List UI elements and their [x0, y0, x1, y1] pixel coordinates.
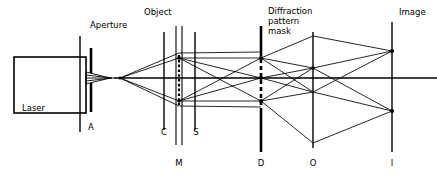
imaging-rays-o-to-i: [313, 36, 392, 143]
letter-a-label: A: [88, 122, 94, 132]
object-slide-m: [176, 26, 182, 145]
object-label: Object: [144, 7, 172, 17]
letter-i-label: I: [391, 158, 394, 168]
diffraction-mask-plane: [259, 26, 263, 152]
laser-label: Laser: [22, 103, 46, 113]
letter-s-label: S: [193, 127, 198, 137]
diffraction-mask-label-line2: pattern: [268, 16, 299, 26]
diverging-beam-cone: [120, 53, 179, 106]
diffracted-orders-m-to-d: [179, 52, 261, 107]
lens-o-plane: [311, 32, 315, 148]
diagram-canvas: Laser Aperture Object Diffraction patter…: [0, 0, 437, 179]
optical-diagram: Laser Aperture Object Diffraction patter…: [0, 0, 437, 179]
letter-m-label: M: [175, 158, 182, 168]
letter-d-label: D: [258, 158, 265, 168]
laser-output-beam: [86, 72, 114, 84]
aperture-label: Aperture: [90, 20, 127, 30]
image-plane: [390, 22, 394, 152]
diffraction-mask-label-line3: mask: [268, 26, 291, 36]
diffraction-mask-label-line1: Diffraction: [268, 6, 312, 16]
letter-o-label: O: [310, 158, 317, 168]
orders-d-to-o: [261, 36, 313, 143]
letter-c-label: C: [161, 127, 167, 137]
image-label: Image: [399, 7, 426, 17]
